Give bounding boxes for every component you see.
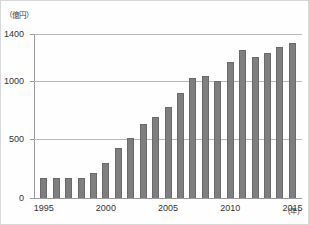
bar bbox=[202, 76, 209, 198]
x-tick-label-2000: 2000 bbox=[96, 204, 116, 213]
bar bbox=[252, 57, 259, 198]
x-tick-label-1995: 1995 bbox=[34, 204, 54, 213]
chart-screenshot: （億円） (年) 050010001400 199520002005201020… bbox=[0, 0, 309, 225]
y-tick-label-1400: 1400 bbox=[4, 30, 24, 39]
bar bbox=[127, 138, 134, 198]
bar bbox=[140, 124, 147, 198]
bar bbox=[289, 43, 296, 198]
bar bbox=[177, 93, 184, 198]
bar bbox=[239, 50, 246, 198]
y-tick-label-0: 0 bbox=[19, 194, 24, 203]
x-tick-label-2015: 2015 bbox=[282, 204, 302, 213]
x-axis-line bbox=[34, 198, 302, 199]
bar bbox=[78, 178, 85, 198]
y-tick-0: 0 bbox=[30, 198, 34, 199]
bar bbox=[53, 178, 60, 198]
bar bbox=[115, 148, 122, 198]
bar bbox=[65, 178, 72, 198]
bar bbox=[40, 178, 47, 198]
bar bbox=[214, 81, 221, 198]
x-tick-label-2010: 2010 bbox=[220, 204, 240, 213]
bar bbox=[90, 173, 97, 198]
bar bbox=[276, 47, 283, 198]
bar bbox=[227, 62, 234, 198]
plot-area: 050010001400 19952000200520102015 bbox=[34, 28, 302, 198]
bar bbox=[165, 107, 172, 198]
bar bbox=[264, 53, 271, 198]
y-tick-label-500: 500 bbox=[9, 135, 24, 144]
bar bbox=[189, 78, 196, 198]
bar bbox=[102, 163, 109, 198]
y-axis-unit-label: （億円） bbox=[5, 12, 33, 20]
x-tick-label-2005: 2005 bbox=[158, 204, 178, 213]
bar bbox=[152, 117, 159, 198]
bar-series bbox=[34, 28, 302, 198]
y-tick-label-1000: 1000 bbox=[4, 76, 24, 85]
